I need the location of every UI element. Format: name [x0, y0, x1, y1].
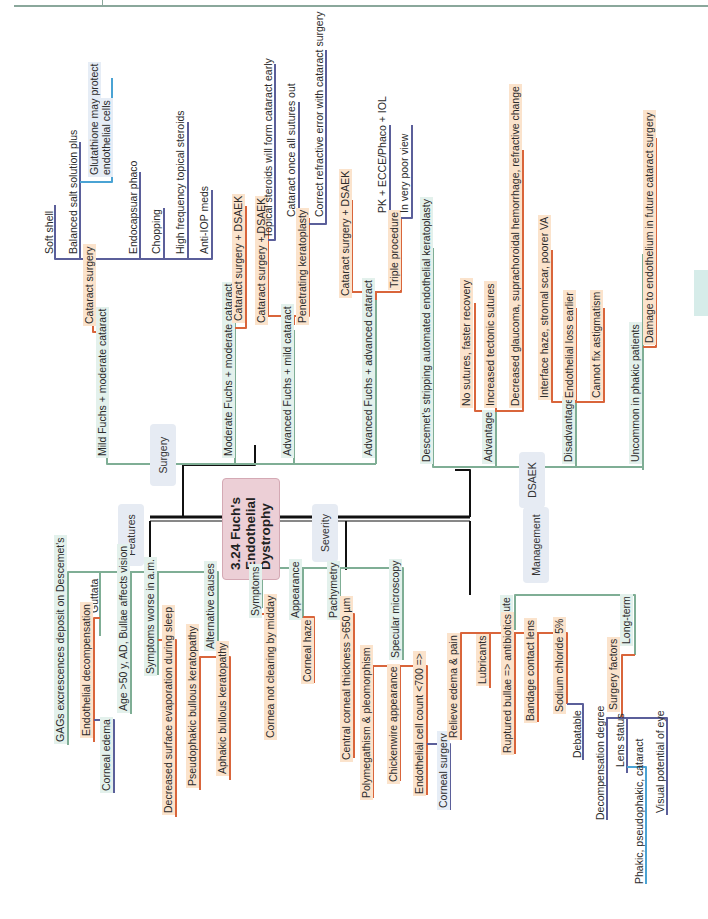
cataract-sutures-label: Cataract once all sutures out: [285, 81, 298, 219]
corneal-edema-label: Corneal edema: [100, 717, 113, 793]
evaporation-label: Decreased surface evaporation during sle…: [162, 605, 175, 815]
pk-ecce-label: PK + ECCE/Phaco + IOL: [376, 94, 389, 215]
chopping-label: Chopping: [150, 207, 163, 256]
advantage-3: Decreased glaucoma, suprachoroidal hemor…: [509, 84, 522, 408]
corneal-haze-label: Corneal haze: [301, 618, 314, 684]
endothelial-decomp-label: Endothelial decompensation: [80, 602, 93, 738]
cell-count-label: Endothelial cell count <700 =>: [413, 651, 426, 796]
symptoms-am-label: Symptoms worse in a.m.: [144, 557, 157, 676]
topical-steroids-label: High frequency topical steroids: [174, 108, 187, 256]
debatable-label: Debatable: [571, 708, 584, 760]
mind-map-page: 3.24 Fuch's Endothelial Dystrophy Surger…: [0, 0, 708, 919]
lubricants-label: Lubricants: [476, 634, 489, 686]
alt-causes-label: Alternative causes: [204, 561, 217, 651]
refractive-error-label: Correct refractive error with cataract s…: [313, 10, 326, 219]
pachymetry-label: Pachymetry: [327, 561, 340, 620]
pk-label: Penetrating keratoplasty: [296, 208, 309, 325]
bandage-lens-label: Bandage contact lens: [524, 618, 537, 723]
cataract-surgery-label: Cataract surgery: [83, 244, 96, 326]
decompensation-degree-label: Decompensation degree: [594, 704, 607, 822]
triple-procedure-label: Triple procedure: [388, 210, 401, 290]
center-title: 3.24 Fuch's Endothelial Dystrophy: [228, 497, 273, 570]
moderate-option-label: Cataract surgery + DSAEK: [232, 194, 245, 323]
polymegathism-label: Polymegathism & pleomorphism: [360, 645, 373, 800]
endocapsular-phaco-label: Endocapsuar phaco: [127, 159, 140, 256]
midday-label: Cornea not clearing by midday: [264, 594, 277, 740]
lens-status-label: Lens status: [614, 711, 627, 769]
category-management: Management: [523, 507, 549, 583]
dsaek-full-name: Descemet's stripping automated endotheli…: [420, 197, 433, 464]
advanced-mild-label: Advanced Fuchs + mild cataract: [281, 304, 294, 458]
long-term-label: Long-term: [620, 594, 633, 646]
soft-shell-label: Soft shell: [43, 209, 56, 256]
anti-iop-label: Anti-IOP meds: [198, 184, 211, 256]
advanced-advanced-label: Advanced Fuchs + advanced cataract: [362, 278, 375, 458]
symptoms-label: Symptoms: [249, 564, 262, 618]
specular-label: Specular microscopy: [389, 559, 402, 660]
disadvantage-label: Disadvantage: [562, 396, 575, 464]
appearance-label: Appearance: [289, 559, 302, 620]
pseudophakic-bk-label: Pseudophakic bullous keratopathy: [186, 624, 199, 788]
phakic-damage-label: Damage to endothelium in future cataract…: [643, 110, 656, 345]
glutathione-label-2: endothelial cells: [100, 98, 113, 177]
phakic-label: Uncommon in phakic patients: [629, 322, 642, 464]
advantage-1: No sutures, faster recovery: [460, 278, 473, 408]
poor-view-label: In very poor view: [398, 132, 411, 215]
disadvantage-2: Endothelial loss earlier: [563, 290, 576, 400]
chickenwire-label: Chickenwire appearance: [387, 664, 400, 784]
bss-plus-label: Balanced salt solution plus: [67, 128, 80, 256]
cct-label: Central corneal thickness >650 µm: [340, 596, 353, 762]
category-severity: Severity: [312, 504, 338, 562]
disadvantage-3: Cannot fix astigmatism: [590, 290, 603, 400]
age-label: Age >50 y, AD, Bullae affects vision: [117, 544, 130, 713]
relieve-edema-label: Relieve edema & pain: [447, 633, 460, 740]
lens-status-detail-label: Phakic, pseudophakic, cataract: [633, 737, 646, 886]
surgery-factors-label: Surgery factors: [607, 637, 620, 712]
category-surgery: Surgery: [150, 424, 176, 486]
corneal-surgery-label: Corneal surgery: [437, 731, 450, 810]
advantage-2: Increased tectonic sutures: [484, 281, 497, 408]
category-dsaek: DSAEK: [519, 452, 545, 508]
ruptured-bullae-label: Ruptured bullae => antibiotics: [501, 612, 514, 755]
steroids-cataract-label: Topical steroids will form cataract earl…: [262, 56, 275, 240]
sodium-chloride-label: Sodium chloride 5%: [553, 617, 566, 714]
advantage-label: Advantage: [482, 410, 495, 464]
visual-potential-label: Visual potential of eye: [654, 708, 667, 815]
adv-adv-option1-label: Cataract surgery + DSAEK: [339, 169, 352, 298]
disadvantage-1: Interface haze, stromal scar, poorer VA: [538, 215, 551, 400]
aphakic-bk-label: Aphakic bullous keratopathy: [216, 641, 229, 776]
mild-fuchs-label: Mild Fuchs + moderate cataract: [96, 307, 109, 458]
gags-label: GAGs excrescences deposit on Descemet's: [54, 535, 67, 744]
